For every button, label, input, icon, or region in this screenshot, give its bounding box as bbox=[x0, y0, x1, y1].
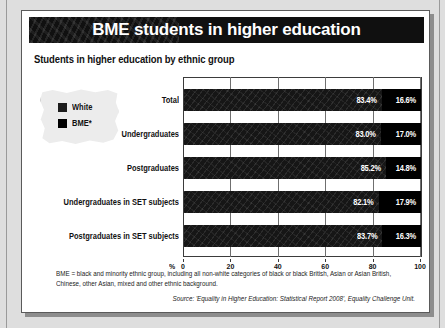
footnote: BME = black and minority ethnic group, i… bbox=[56, 269, 401, 289]
bar-value-bme: 16.6% bbox=[396, 95, 421, 105]
source-note: Source: 'Equality in Higher Education: S… bbox=[172, 294, 415, 302]
page-edge-right bbox=[439, 0, 440, 328]
axis-tick bbox=[420, 259, 421, 262]
category-labels: TotalUndergraduatesPostgraduatesUndergra… bbox=[27, 77, 179, 257]
bar-value-white: 83.7% bbox=[357, 231, 382, 241]
bar-segment-bme: 16.6% bbox=[382, 89, 421, 111]
page-background: BME students in higher education Student… bbox=[0, 0, 445, 328]
bar-segment-white: 83.0% bbox=[184, 123, 381, 145]
bar-value-bme: 16.3% bbox=[396, 231, 421, 241]
bar-value-white: 83.4% bbox=[356, 95, 381, 105]
bar-value-white: 85.2% bbox=[361, 163, 386, 173]
category-label: Postgraduates bbox=[29, 163, 179, 173]
bar-row: 83.0%17.0% bbox=[184, 123, 421, 145]
bar-segment-bme: 17.0% bbox=[381, 123, 421, 145]
plot-area: 83.4%16.6%83.0%17.0%85.2%14.8%82.1%17.9%… bbox=[183, 77, 422, 257]
page-title: BME students in higher education bbox=[29, 17, 424, 43]
bar-row: 83.4%16.6% bbox=[184, 89, 421, 111]
bar-segment-white: 83.4% bbox=[184, 89, 382, 111]
category-label: Postgraduates in SET subjects bbox=[29, 231, 179, 241]
axis-tick bbox=[230, 259, 231, 262]
bar-row: 83.7%16.3% bbox=[184, 225, 421, 247]
category-label: Total bbox=[29, 95, 179, 105]
bar-segment-white: 83.7% bbox=[184, 225, 382, 247]
axis-tick bbox=[373, 259, 374, 262]
figure-card: BME students in higher education Student… bbox=[21, 10, 430, 313]
bar-segment-bme: 14.8% bbox=[386, 157, 421, 179]
page-edge-left bbox=[6, 0, 7, 328]
bar-value-white: 82.1% bbox=[353, 197, 378, 207]
axis-tick bbox=[278, 259, 279, 262]
bar-value-white: 83.0% bbox=[355, 129, 380, 139]
axis-tick bbox=[325, 259, 326, 262]
bar-segment-white: 85.2% bbox=[184, 157, 386, 179]
title-bar: BME students in higher education bbox=[29, 17, 424, 43]
bar-value-bme: 17.0% bbox=[396, 129, 421, 139]
bar-value-bme: 17.9% bbox=[396, 197, 421, 207]
bar-value-bme: 14.8% bbox=[396, 163, 421, 173]
category-label: Undergraduates in SET subjects bbox=[29, 197, 179, 207]
category-label: Undergraduates bbox=[29, 129, 179, 139]
bar-segment-white: 82.1% bbox=[184, 191, 379, 213]
chart-area: White BME* TotalUndergraduatesPostgradua… bbox=[22, 71, 431, 271]
axis-tick bbox=[183, 259, 184, 262]
bar-segment-bme: 17.9% bbox=[379, 191, 421, 213]
bar-segment-bme: 16.3% bbox=[382, 225, 421, 247]
axis-tick-label: 100 bbox=[414, 263, 426, 271]
chart-subtitle: Students in higher education by ethnic g… bbox=[34, 52, 234, 65]
bar-row: 85.2%14.8% bbox=[184, 157, 421, 179]
bar-row: 82.1%17.9% bbox=[184, 191, 421, 213]
